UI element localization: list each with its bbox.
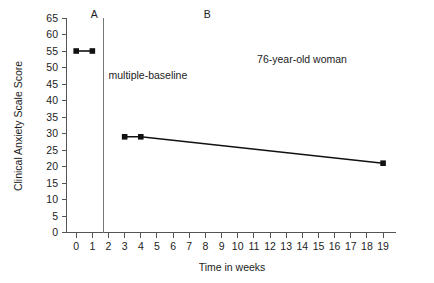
x-tick-label: 0 [73,240,79,252]
chart-canvas: 05101520253035404550556065 0123456789101… [0,0,434,283]
y-tick-label: 50 [46,61,58,73]
x-tick-label: 11 [248,240,259,252]
y-tick-label: 20 [46,160,58,172]
x-tick-label: 19 [377,240,389,252]
x-tick-label: 3 [122,240,128,252]
y-tick-label: 10 [46,193,58,205]
x-axis-tick-labels: 012345678910111213141516171819 [73,240,389,252]
x-axis-title: Time in weeks [199,261,266,273]
y-axis-ticks [62,18,67,233]
y-tick-label: 55 [46,45,58,57]
x-axis-ticks [76,233,383,238]
data-point-marker [90,48,96,54]
x-tick-label: 6 [170,240,176,252]
y-tick-label: 30 [46,127,58,139]
x-tick-label: 7 [186,240,192,252]
x-tick-label: 18 [361,240,373,252]
y-tick-label: 45 [46,78,58,90]
y-tick-label: 40 [46,94,58,106]
y-tick-label: 25 [46,144,58,156]
single-case-design-chart: 05101520253035404550556065 0123456789101… [0,0,434,283]
y-tick-label: 60 [46,28,58,40]
x-tick-label: 13 [280,240,292,252]
x-tick-label: 2 [106,240,112,252]
chart-annotations: ABmultiple-baseline76-year-old woman [91,8,347,81]
subject-label: 76-year-old woman [257,53,347,65]
data-point-marker [138,134,144,140]
y-tick-label: 15 [46,177,58,189]
y-tick-label: 5 [52,210,58,222]
data-point-marker [122,134,128,140]
x-tick-label: 16 [329,240,341,252]
data-series-group [73,48,385,166]
x-tick-label: 14 [296,240,308,252]
data-point-marker [73,48,79,54]
series-line-phase-b-treatment [125,137,383,163]
x-tick-label: 15 [313,240,325,252]
x-tick-label: 9 [219,240,225,252]
x-tick-label: 8 [202,240,208,252]
phase-a-label: A [91,8,98,20]
y-tick-label: 0 [52,226,58,238]
phase-b-label: B [204,8,211,20]
x-tick-label: 1 [89,240,95,252]
y-axis-tick-labels: 05101520253035404550556065 [46,12,58,239]
multiple-baseline-label: multiple-baseline [108,69,187,81]
y-axis-title: Clinical Anxiety Scale Score [12,61,24,191]
data-point-marker [380,160,386,166]
y-tick-label: 65 [46,12,58,24]
x-tick-label: 5 [154,240,160,252]
x-tick-label: 10 [232,240,244,252]
x-tick-label: 17 [345,240,357,252]
x-tick-label: 12 [264,240,276,252]
x-tick-label: 4 [138,240,144,252]
y-tick-label: 35 [46,111,58,123]
